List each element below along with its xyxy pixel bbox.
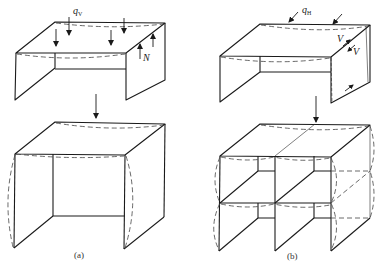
vertical-load-arrows bbox=[56, 17, 124, 46]
caption-b: (b) bbox=[287, 251, 298, 261]
horizontal-load-arrows bbox=[289, 12, 342, 24]
load-label-qv: qV bbox=[73, 5, 83, 17]
shear-label-v2: V bbox=[353, 46, 361, 57]
shear-label-v1: V bbox=[337, 33, 345, 44]
load-label-qh: qH bbox=[302, 4, 312, 16]
panel-b-bottom-frame bbox=[214, 124, 374, 251]
structural-diagram: qV N (a) q bbox=[0, 0, 376, 266]
caption-a: (a) bbox=[74, 250, 84, 260]
panel-a-bottom-box bbox=[8, 122, 165, 249]
reaction-label-n: N bbox=[142, 52, 151, 63]
panel-b-top-box bbox=[220, 24, 370, 103]
